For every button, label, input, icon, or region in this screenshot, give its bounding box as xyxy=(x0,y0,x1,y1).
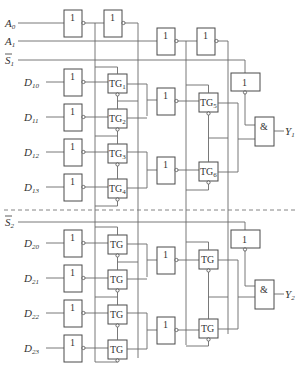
label-y1: Y1 xyxy=(285,125,295,139)
svg-text:1: 1 xyxy=(70,71,75,82)
label-d11: D11 xyxy=(23,111,38,125)
svg-text:1: 1 xyxy=(163,90,168,101)
svg-text:TG: TG xyxy=(110,344,123,355)
label-d12: D12 xyxy=(23,146,39,160)
svg-text:TG: TG xyxy=(110,309,123,320)
svg-text:1: 1 xyxy=(70,337,75,348)
svg-text:1: 1 xyxy=(163,319,168,330)
label-y2: Y2 xyxy=(285,288,295,302)
svg-text:1: 1 xyxy=(70,141,75,152)
label-d20: D20 xyxy=(23,237,39,251)
circuit-diagram: 11 11 11 11 11 1 11 11 11 1 & & TG1 TG2 … xyxy=(0,0,299,369)
svg-text:1: 1 xyxy=(242,77,247,88)
label-a0: A0 xyxy=(4,17,16,31)
svg-text:1: 1 xyxy=(70,176,75,187)
svg-text:1: 1 xyxy=(70,106,75,117)
label-s2: S2 xyxy=(5,216,15,230)
svg-text:1: 1 xyxy=(70,232,75,243)
label-a1: A1 xyxy=(4,35,15,49)
schematic: 11 11 11 11 11 1 11 11 11 1 & & TG1 TG2 … xyxy=(0,0,299,369)
label-d21: D21 xyxy=(23,272,39,286)
label-d22: D22 xyxy=(23,307,39,321)
label-s1: S1 xyxy=(5,54,14,68)
svg-text:1: 1 xyxy=(110,12,115,23)
svg-text:1: 1 xyxy=(70,267,75,278)
svg-text:1: 1 xyxy=(163,249,168,260)
svg-text:&: & xyxy=(260,284,268,295)
label-d23: D23 xyxy=(23,342,39,356)
label-d13: D13 xyxy=(23,181,39,195)
svg-text:1: 1 xyxy=(242,234,247,245)
svg-text:TG: TG xyxy=(201,254,214,265)
svg-text:&: & xyxy=(260,121,268,132)
svg-text:1: 1 xyxy=(203,30,208,41)
svg-text:1: 1 xyxy=(163,159,168,170)
svg-text:1: 1 xyxy=(70,302,75,313)
svg-text:TG: TG xyxy=(201,323,214,334)
label-d10: D10 xyxy=(23,76,39,90)
svg-text:TG: TG xyxy=(110,239,123,250)
svg-text:TG: TG xyxy=(110,274,123,285)
svg-text:1: 1 xyxy=(163,30,168,41)
svg-text:1: 1 xyxy=(70,12,75,23)
